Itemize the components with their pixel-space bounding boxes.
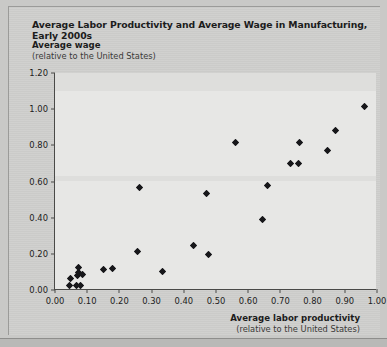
y-axis-tick-label: 0.80	[14, 140, 55, 150]
y-axis-tick-mark	[51, 253, 55, 254]
x-axis-tick-mark	[344, 289, 345, 293]
figure-panel: Average Labor Productivity and Average W…	[8, 6, 380, 335]
x-axis-tick-mark	[119, 289, 120, 293]
x-axis-tick-mark	[312, 289, 313, 293]
y-axis-tick-mark	[51, 109, 55, 110]
x-axis-tick-label: 0.90	[335, 296, 354, 306]
chart-title: Average Labor Productivity and Average W…	[32, 19, 377, 41]
y-axis-tick-mark	[51, 145, 55, 146]
scatter-point	[67, 275, 74, 282]
scatter-point	[361, 103, 368, 110]
plot-canvas: 0.000.200.400.600.801.001.200.000.100.20…	[55, 73, 376, 289]
scatter-point	[203, 190, 210, 197]
scatter-point	[75, 264, 82, 271]
scatter-point	[100, 266, 107, 273]
scatter-point	[287, 160, 294, 167]
window-bottom-bar	[0, 338, 387, 347]
scatter-point	[190, 242, 197, 249]
y-axis-tick-mark	[51, 181, 55, 182]
x-axis-label-line1: Average labor productivity	[110, 313, 360, 324]
y-axis-tick-mark	[51, 73, 55, 74]
scatter-point	[205, 251, 212, 258]
x-axis-label-line2: (relative to the United States)	[110, 324, 360, 335]
scatter-point	[232, 139, 239, 146]
scatter-point	[295, 160, 302, 167]
scatter-point	[259, 216, 266, 223]
x-axis-tick-label: 0.00	[46, 296, 65, 306]
y-axis-tick-label: 0.60	[14, 177, 55, 187]
scatter-point	[77, 282, 84, 289]
x-axis-tick-label: 0.70	[271, 296, 290, 306]
y-axis-tick-label: 0.00	[14, 285, 55, 295]
x-axis-tick-mark	[151, 289, 152, 293]
scatter-point	[264, 182, 271, 189]
x-axis-tick-label: 0.10	[78, 296, 97, 306]
x-axis-tick-label: 1.00	[368, 296, 387, 306]
y-axis-tick-label: 0.20	[14, 249, 55, 259]
x-axis-tick-label: 0.20	[110, 296, 129, 306]
x-axis-tick-mark	[377, 289, 378, 293]
y-axis-label: Average wage (relative to the United Sta…	[32, 40, 232, 62]
scatter-point	[79, 271, 86, 278]
x-axis-tick-label: 0.80	[303, 296, 322, 306]
x-axis-tick-mark	[216, 289, 217, 293]
x-axis-tick-label: 0.50	[207, 296, 226, 306]
plot-area: 0.000.200.400.600.801.001.200.000.100.20…	[54, 73, 376, 290]
scatter-point	[324, 147, 331, 154]
scatter-point	[109, 265, 116, 272]
y-axis-tick-label: 0.40	[14, 213, 55, 223]
x-axis-tick-mark	[87, 289, 88, 293]
x-axis-label: Average labor productivity (relative to …	[110, 313, 360, 335]
plot-shading-band	[55, 73, 376, 91]
y-axis-tick-mark	[51, 217, 55, 218]
y-axis-tick-label: 1.20	[14, 68, 55, 78]
y-axis-tick-label: 1.00	[14, 104, 55, 114]
scatter-point	[332, 127, 339, 134]
x-axis-tick-mark	[183, 289, 184, 293]
scatter-point	[134, 248, 141, 255]
x-axis-tick-label: 0.30	[142, 296, 161, 306]
scatter-point	[159, 268, 166, 275]
y-axis-label-line1: Average wage	[32, 40, 232, 51]
plot-shading-band	[55, 176, 376, 181]
scatter-point	[136, 184, 143, 191]
y-axis-label-line2: (relative to the United States)	[32, 51, 232, 62]
x-axis-tick-mark	[280, 289, 281, 293]
x-axis-tick-label: 0.40	[174, 296, 193, 306]
scatter-point	[296, 139, 303, 146]
x-axis-tick-mark	[55, 289, 56, 293]
x-axis-tick-mark	[248, 289, 249, 293]
x-axis-tick-label: 0.60	[239, 296, 258, 306]
